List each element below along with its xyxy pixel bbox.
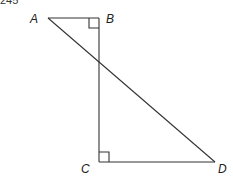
- segment-ad: [48, 18, 215, 162]
- label-b: B: [106, 12, 114, 26]
- right-angle-mark-b: [89, 18, 99, 28]
- label-a: A: [29, 12, 38, 26]
- geometry-diagram: A B C D: [0, 0, 233, 180]
- label-d: D: [218, 162, 227, 176]
- right-angle-mark-c: [99, 152, 109, 162]
- label-c: C: [81, 162, 90, 176]
